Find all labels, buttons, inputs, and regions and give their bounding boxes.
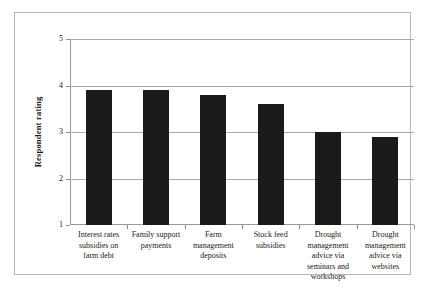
- x-axis-category-line: management: [299, 241, 356, 252]
- x-axis-tick-mark: [185, 225, 186, 229]
- y-axis-title: Respondent rating: [29, 39, 47, 225]
- x-axis-tick-mark: [357, 225, 358, 229]
- y-axis-tick-label: 1: [59, 221, 63, 229]
- x-axis-category-label: Family supportpayments: [127, 230, 184, 251]
- x-axis-category-line: websites: [357, 262, 414, 273]
- x-axis-category-label: Droughtmanagementadvice viawebsites: [357, 230, 414, 272]
- x-axis-category-line: Drought: [299, 230, 356, 241]
- y-axis-tick-label: 3: [59, 128, 63, 136]
- bar: [200, 95, 226, 225]
- x-axis-category-line: farm debt: [70, 251, 127, 262]
- x-axis-tick-mark: [242, 225, 243, 229]
- bar: [372, 137, 398, 225]
- bar-slot: [185, 39, 242, 225]
- bar: [258, 104, 284, 225]
- x-axis-category-line: Family support: [127, 230, 184, 241]
- x-axis-category-label: Farmmanagementdeposits: [185, 230, 242, 262]
- chart-figure: Respondent rating 12345 Interest ratessu…: [14, 12, 411, 275]
- bar-slot: [299, 39, 356, 225]
- x-axis-category-line: Farm: [185, 230, 242, 241]
- x-axis-category-line: management: [185, 241, 242, 252]
- y-axis-tick-label: 5: [59, 35, 63, 43]
- bar: [86, 90, 112, 225]
- y-axis-tick-label: 2: [59, 175, 63, 183]
- x-axis-category-label: Interest ratessubsidies onfarm debt: [70, 230, 127, 262]
- bar-slot: [70, 39, 127, 225]
- x-axis-tick-mark: [299, 225, 300, 229]
- y-axis-tick-label: 4: [59, 82, 63, 90]
- x-axis-category-line: payments: [127, 241, 184, 252]
- x-axis-labels: Interest ratessubsidies onfarm debtFamil…: [70, 230, 414, 288]
- x-axis-category-line: advice via: [357, 251, 414, 262]
- bar: [315, 132, 341, 225]
- bar-slot: [127, 39, 184, 225]
- bar-series: [70, 39, 414, 225]
- x-axis-category-line: advice via: [299, 251, 356, 262]
- x-axis-category-line: workshops: [299, 272, 356, 283]
- x-axis-category-line: deposits: [185, 251, 242, 262]
- x-axis-category-label: Droughtmanagementadvice viaseminars andw…: [299, 230, 356, 283]
- x-axis-tick-mark: [414, 225, 415, 229]
- bar: [143, 90, 169, 225]
- bar-slot: [357, 39, 414, 225]
- plot-area: 12345: [70, 39, 414, 225]
- x-axis-category-line: Drought: [357, 230, 414, 241]
- x-axis-category-line: Stock feed: [242, 230, 299, 241]
- x-axis-category-line: subsidies on: [70, 241, 127, 252]
- bar-slot: [242, 39, 299, 225]
- x-axis-category-line: management: [357, 241, 414, 252]
- x-axis-category-label: Stock feedsubsidies: [242, 230, 299, 251]
- x-axis-category-line: seminars and: [299, 262, 356, 273]
- x-axis-tick-mark: [127, 225, 128, 229]
- y-axis-title-label: Respondent rating: [33, 97, 43, 168]
- x-axis-category-line: Interest rates: [70, 230, 127, 241]
- x-axis-category-line: subsidies: [242, 241, 299, 252]
- y-axis-tick-mark: [66, 225, 70, 226]
